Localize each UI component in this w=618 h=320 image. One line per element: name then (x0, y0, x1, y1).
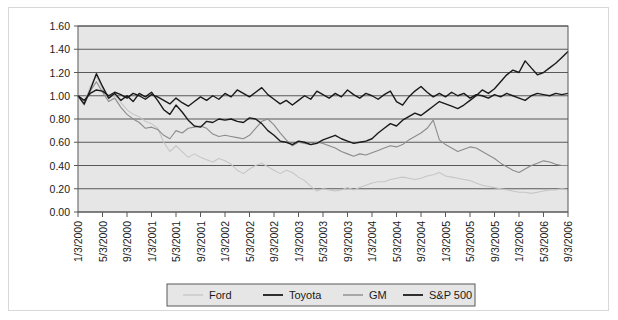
y-tick-label: 0.20 (50, 183, 71, 195)
chart-figure: 0.000.200.400.600.801.001.201.401.601/3/… (0, 0, 618, 320)
x-tick-label: 5/3/2004 (391, 221, 403, 262)
y-gridlines: 0.000.200.400.600.801.001.201.401.60 (50, 20, 568, 218)
y-tick-label: 1.20 (50, 67, 71, 79)
x-axis: 1/3/20005/3/20009/3/20001/3/20015/3/2001… (72, 212, 574, 262)
y-tick-label: 0.40 (50, 160, 71, 172)
legend-label-ford: Ford (209, 289, 232, 301)
x-tick-label: 1/3/2002 (219, 221, 231, 262)
x-tick-label: 9/3/2002 (268, 221, 280, 262)
x-tick-label: 5/3/2000 (97, 221, 109, 262)
x-tick-label: 9/3/2003 (342, 221, 354, 262)
x-tick-label: 9/3/2006 (562, 221, 574, 262)
x-tick-label: 5/3/2003 (317, 221, 329, 262)
legend-label-gm: GM (369, 289, 387, 301)
x-tick-label: 9/3/2005 (489, 221, 501, 262)
legend-label-toyota: Toyota (289, 289, 322, 301)
x-tick-label: 1/3/2006 (513, 221, 525, 262)
x-tick-label: 9/3/2004 (415, 221, 427, 262)
y-tick-label: 0.80 (50, 113, 71, 125)
x-tick-label: 9/3/2001 (195, 221, 207, 262)
x-tick-label: 5/3/2006 (538, 221, 550, 262)
x-tick-label: 1/3/2005 (440, 221, 452, 262)
chart-legend: FordToyotaGMS&P 500 (167, 284, 475, 306)
x-tick-label: 1/3/2003 (293, 221, 305, 262)
y-tick-label: 1.40 (50, 43, 71, 55)
stock-index-line-chart: 0.000.200.400.600.801.001.201.401.601/3/… (0, 0, 618, 320)
y-tick-label: 1.60 (50, 20, 71, 32)
x-tick-label: 1/3/2004 (366, 221, 378, 262)
x-tick-label: 5/3/2002 (244, 221, 256, 262)
x-tick-label: 5/3/2005 (464, 221, 476, 262)
x-tick-label: 1/3/2000 (72, 221, 84, 262)
x-tick-label: 9/3/2000 (121, 221, 133, 262)
y-tick-label: 0.60 (50, 136, 71, 148)
x-tick-label: 1/3/2001 (146, 221, 158, 262)
x-tick-label: 5/3/2001 (170, 221, 182, 262)
y-tick-label: 1.00 (50, 90, 71, 102)
legend-label-s-p-500: S&P 500 (429, 289, 472, 301)
y-tick-label: 0.00 (50, 206, 71, 218)
